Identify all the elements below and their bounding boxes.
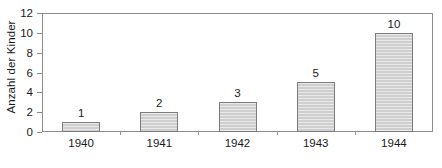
bar-value-label: 2 <box>140 96 178 110</box>
y-tick-mark <box>37 132 42 133</box>
bar-group: 5 <box>297 13 335 132</box>
bars-layer: 123510 <box>42 13 433 132</box>
x-tick-label: 1940 <box>42 135 120 151</box>
x-tick-mark <box>277 132 278 135</box>
y-tick-label: 2 <box>27 104 33 120</box>
bar-group: 1 <box>62 13 100 132</box>
bar <box>375 33 413 132</box>
y-axis-ticks: 024681012 <box>0 0 42 168</box>
bar-group: 3 <box>219 13 257 132</box>
bar-value-label: 10 <box>375 17 413 31</box>
y-tick-label: 0 <box>27 124 33 140</box>
x-tick-label: 1942 <box>198 135 276 151</box>
y-tick-label: 8 <box>27 45 33 61</box>
y-tick-label: 6 <box>27 65 33 81</box>
x-tick-label: 1943 <box>277 135 355 151</box>
bar-value-label: 3 <box>219 86 257 100</box>
x-axis-ticks: 19401941194219431944 <box>42 135 433 155</box>
x-tick-label: 1941 <box>120 135 198 151</box>
bar-chart: Anzahl der Kinder 024681012 123510 19401… <box>0 0 442 168</box>
bar <box>297 82 335 132</box>
bar-value-label: 5 <box>297 66 335 80</box>
x-tick-label: 1944 <box>355 135 433 151</box>
bar <box>219 102 257 132</box>
bar <box>140 112 178 132</box>
y-tick-label: 12 <box>20 5 33 21</box>
bar-group: 2 <box>140 13 178 132</box>
y-tick-label: 10 <box>20 25 33 41</box>
bar <box>62 122 100 132</box>
bar-group: 10 <box>375 13 413 132</box>
x-tick-mark <box>198 132 199 135</box>
bar-value-label: 1 <box>62 106 100 120</box>
x-tick-mark <box>120 132 121 135</box>
y-tick-label: 4 <box>27 84 33 100</box>
x-tick-mark <box>355 132 356 135</box>
